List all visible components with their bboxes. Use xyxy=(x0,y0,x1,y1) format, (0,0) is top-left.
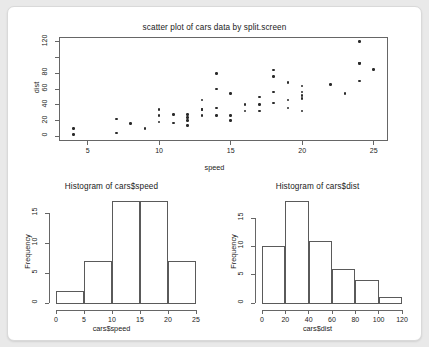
scatter-point xyxy=(186,116,189,119)
histogram-speed-bar xyxy=(56,291,84,303)
scatter-point xyxy=(229,92,232,95)
histogram-speed-bar xyxy=(140,201,168,303)
scatter-x-tick-label: 15 xyxy=(217,147,245,154)
scatter-point xyxy=(186,113,189,116)
scatter-point xyxy=(372,68,375,71)
scatter-point xyxy=(129,122,132,125)
histogram-dist-panel: Histogram of cars$dist Frequency cars$di… xyxy=(214,173,421,340)
scatter-point xyxy=(358,62,361,65)
histogram-speed-y-tick-label: 15 xyxy=(31,203,38,221)
histogram-speed-x-axis-label: cars$speed xyxy=(8,324,215,333)
scatter-y-tick xyxy=(55,89,59,90)
scatter-y-tick-label: 40 xyxy=(41,94,48,112)
histogram-dist-y-axis-line xyxy=(255,218,256,303)
scatter-x-tick xyxy=(373,141,374,145)
histogram-dist-y-tick-label: 10 xyxy=(237,236,244,254)
histogram-dist-bar xyxy=(285,201,308,303)
scatter-point xyxy=(186,119,189,122)
histogram-speed-x-tick-label: 15 xyxy=(126,316,154,323)
scatter-y-axis-label: dist xyxy=(32,58,41,118)
scatter-y-tick-label: 20 xyxy=(41,110,48,128)
histogram-speed-y-axis-line xyxy=(49,213,50,303)
histogram-speed-y-tick-label: 10 xyxy=(31,233,38,251)
histogram-dist-y-tick xyxy=(251,274,255,275)
scatter-y-tick xyxy=(55,136,59,137)
scatter-point xyxy=(258,110,261,113)
scatter-y-tick xyxy=(55,120,59,121)
histogram-speed-y-tick-label: 0 xyxy=(31,293,38,311)
scatter-point xyxy=(229,119,232,122)
scatter-plot-panel: scatter plot of cars data by split.scree… xyxy=(8,7,421,173)
histogram-speed-x-tick-label: 25 xyxy=(182,316,210,323)
scatter-point xyxy=(229,114,232,117)
histogram-speed-y-tick xyxy=(45,303,49,304)
scatter-point xyxy=(258,103,261,106)
histogram-speed-x-axis-line xyxy=(56,310,196,311)
scatter-plot-area xyxy=(59,37,388,141)
histogram-dist-bar xyxy=(262,246,285,303)
histogram-speed-x-tick xyxy=(168,310,169,314)
scatter-point xyxy=(287,81,290,84)
scatter-y-tick xyxy=(55,104,59,105)
scatter-y-tick-label: 120 xyxy=(41,31,48,49)
scatter-x-tick xyxy=(230,141,231,145)
scatter-point xyxy=(258,96,261,99)
histogram-dist-x-tick xyxy=(308,310,309,314)
scatter-point xyxy=(72,133,75,136)
scatter-y-tick xyxy=(55,41,59,42)
histogram-speed-x-tick-label: 10 xyxy=(98,316,126,323)
histogram-dist-bar xyxy=(379,297,402,303)
histogram-speed-x-tick-label: 5 xyxy=(70,316,98,323)
histogram-dist-y-tick xyxy=(251,303,255,304)
histogram-speed-x-tick-label: 0 xyxy=(42,316,70,323)
histogram-dist-x-tick xyxy=(378,310,379,314)
histogram-dist-x-tick xyxy=(262,310,263,314)
scatter-y-tick xyxy=(55,73,59,74)
scatter-y-tick-label: 80 xyxy=(41,63,48,81)
histogram-speed-x-tick-label: 20 xyxy=(154,316,182,323)
scatter-point xyxy=(215,72,218,75)
histogram-dist-baseline xyxy=(262,303,402,304)
histogram-dist-x-tick xyxy=(355,310,356,314)
histogram-dist-bar xyxy=(309,241,332,303)
scatter-point xyxy=(215,114,218,117)
histogram-speed-bar xyxy=(112,201,140,303)
scatter-point xyxy=(215,88,218,91)
scatter-point xyxy=(272,75,275,78)
histogram-dist-bar xyxy=(332,269,355,303)
histogram-speed-bar xyxy=(84,261,112,303)
scatter-x-tick xyxy=(87,141,88,145)
scatter-plot-title: scatter plot of cars data by split.scree… xyxy=(8,23,421,32)
scatter-point xyxy=(144,127,147,130)
histogram-dist-x-tick-label: 120 xyxy=(388,316,416,323)
histogram-speed-y-tick-label: 5 xyxy=(31,263,38,281)
scatter-point xyxy=(358,40,361,43)
scatter-y-tick-label: 60 xyxy=(41,79,48,97)
histogram-speed-x-tick xyxy=(112,310,113,314)
histogram-speed-x-tick xyxy=(56,310,57,314)
scatter-point xyxy=(329,83,332,86)
histogram-dist-y-tick-label: 15 xyxy=(237,208,244,226)
histogram-dist-bar xyxy=(355,280,378,303)
histogram-dist-y-tick-label: 5 xyxy=(237,264,244,282)
scatter-x-tick-label: 20 xyxy=(288,147,316,154)
scatter-y-tick xyxy=(55,57,59,58)
histogram-dist-x-tick xyxy=(332,310,333,314)
histogram-speed-y-tick xyxy=(45,213,49,214)
histogram-speed-y-tick xyxy=(45,243,49,244)
histogram-dist-y-tick xyxy=(251,246,255,247)
scatter-point xyxy=(72,127,75,130)
histogram-dist-title: Histogram of cars$dist xyxy=(214,182,421,191)
histogram-speed-x-tick xyxy=(140,310,141,314)
histogram-speed-title: Histogram of cars$speed xyxy=(8,182,215,191)
histogram-dist-y-tick xyxy=(251,218,255,219)
histogram-speed-baseline xyxy=(56,303,196,304)
scatter-x-tick xyxy=(302,141,303,145)
scatter-point xyxy=(115,118,118,121)
histogram-speed-x-tick xyxy=(196,310,197,314)
scatter-point xyxy=(172,122,175,125)
histogram-dist-x-tick xyxy=(402,310,403,314)
scatter-x-tick xyxy=(159,141,160,145)
histogram-dist-y-tick-label: 0 xyxy=(237,293,244,311)
histogram-speed-panel: Histogram of cars$speed Frequency cars$s… xyxy=(8,173,215,340)
